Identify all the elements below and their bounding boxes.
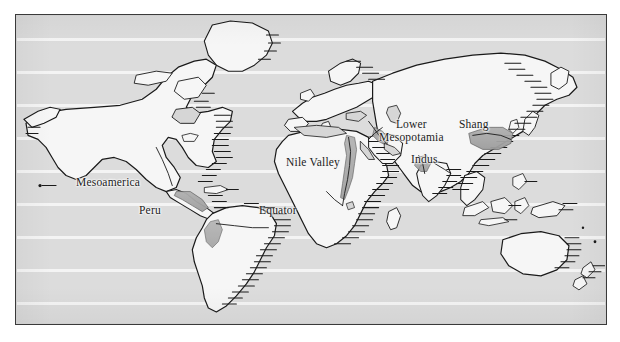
map-frame: MesoamericaPeruNile ValleyLower Mesopota… [15,14,607,325]
hudson-bay [172,107,200,123]
map-label-peru: Peru [139,204,161,216]
land-north-america [26,59,232,191]
land-scandinavia [329,59,361,85]
map-figure-page: MesoamericaPeruNile ValleyLower Mesopota… [0,0,620,342]
map-label-lower-mesopotamia: Lower Mesopotamia [379,118,444,143]
black-sea [347,111,367,121]
land-southeast-asia [461,172,485,206]
map-label-indus: Indus [411,153,438,165]
land-australia [501,232,569,276]
map-label-mesoamerica: Mesoamerica [76,176,140,188]
world-map-vector [16,15,606,324]
map-label-shang: Shang [459,118,489,130]
land-caribbean-islands [204,186,228,194]
map-label-nile-valley: Nile Valley [286,156,340,168]
land-pacific-island-a [38,184,41,187]
land-south-america [192,206,276,312]
land-madagascar [387,208,401,230]
map-label-equator: Equator [259,204,297,216]
land-pacific-island-b [594,240,597,243]
land-pacific-island-c [582,226,584,228]
land-java [479,218,509,226]
